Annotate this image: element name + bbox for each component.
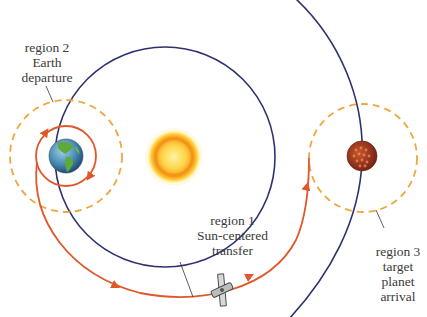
spacecraft-icon [205, 271, 239, 309]
transfer-arrow-2 [246, 276, 250, 278]
region1-label-line3: transfer [175, 243, 290, 258]
region3-leader-line [376, 210, 384, 228]
region2-label-line3: departure [2, 70, 92, 85]
region1-label: region 1 Sun-centered transfer [175, 213, 290, 258]
sun-icon [145, 128, 203, 186]
region1-label-line1: region 1 [175, 213, 290, 228]
region1-label-line2: Sun-centered [175, 228, 290, 243]
region2-label-line1: region 2 [2, 40, 92, 55]
region3-label-line1: region 3 [368, 244, 427, 259]
region2-label: region 2 Earth departure [2, 40, 92, 85]
region3-label-line2: target [368, 259, 427, 274]
region3-label: region 3 target planet arrival [368, 244, 427, 304]
region2-leader-line [46, 86, 53, 102]
region1-leader-line [180, 262, 193, 297]
region2-label-line2: Earth [2, 55, 92, 70]
region3-label-line3: planet [368, 274, 427, 289]
region3-label-line4: arrival [368, 289, 427, 304]
earth-globe-icon [49, 139, 83, 173]
planet-icon [347, 141, 377, 171]
transfer-arrow-3 [306, 186, 307, 190]
